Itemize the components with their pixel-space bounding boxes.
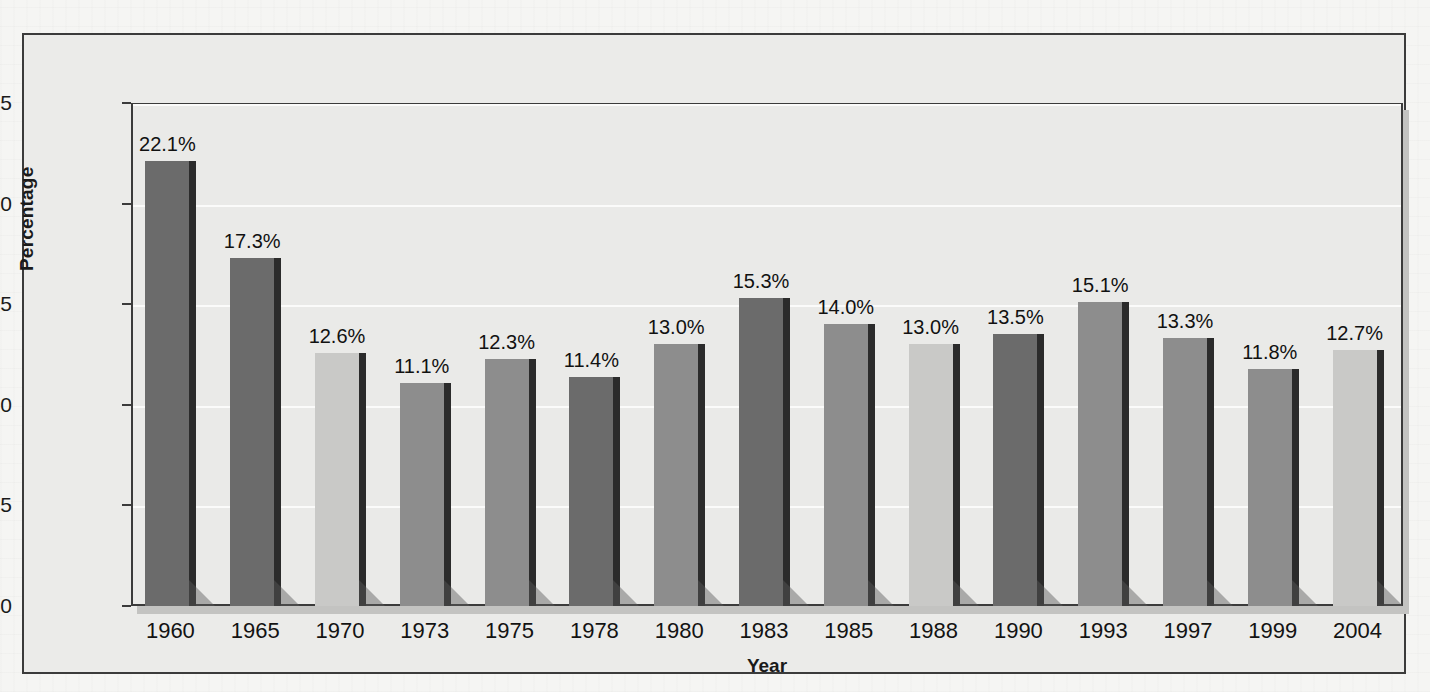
bar-drop-shadow — [1122, 580, 1148, 606]
bar-drop-shadow — [529, 580, 555, 606]
y-tick-label: 20 — [0, 192, 12, 216]
bar-value-label: 12.3% — [478, 331, 535, 354]
bar-drop-shadow — [698, 580, 724, 606]
bar[interactable] — [1078, 302, 1122, 606]
bar[interactable] — [485, 359, 529, 606]
bar[interactable] — [230, 258, 274, 606]
bar-slot: 13.0% — [640, 103, 725, 606]
bar-value-label: 13.0% — [902, 316, 959, 339]
bar-edge — [1207, 338, 1214, 606]
x-tick-label: 1965 — [231, 618, 280, 644]
bar-drop-shadow — [359, 580, 385, 606]
x-axis-tick-labels: 1960196519701973197519781980198319851988… — [131, 618, 1403, 652]
bar-drop-shadow — [783, 580, 809, 606]
bar[interactable] — [739, 298, 783, 606]
figure-frame: Percentage 0510152025 22.1%17.3%12.6%11.… — [22, 33, 1406, 674]
bar-slot: 15.3% — [725, 103, 810, 606]
bar-slot: 22.1% — [131, 103, 216, 606]
bar-body — [1163, 338, 1207, 606]
y-tick-label: 25 — [0, 91, 12, 115]
bar-drop-shadow — [444, 580, 470, 606]
bar-value-label: 14.0% — [817, 296, 874, 319]
bar[interactable] — [400, 383, 444, 606]
bar-edge — [868, 324, 875, 606]
bar-value-label: 15.1% — [1072, 274, 1129, 297]
y-tick-mark — [122, 605, 131, 607]
bar-body — [739, 298, 783, 606]
bar-body — [654, 344, 698, 606]
y-tick-label: 5 — [0, 493, 12, 517]
bar-body — [400, 383, 444, 606]
bar-drop-shadow — [1292, 580, 1318, 606]
x-tick-label: 1970 — [316, 618, 365, 644]
bar-value-label: 13.3% — [1157, 310, 1214, 333]
bar[interactable] — [145, 161, 189, 606]
bar-body — [569, 377, 613, 606]
bar-body — [993, 334, 1037, 606]
y-tick-mark — [122, 404, 131, 406]
bar-drop-shadow — [274, 580, 300, 606]
bar[interactable] — [1248, 369, 1292, 606]
x-tick-label: 1999 — [1248, 618, 1297, 644]
y-tick-label: 15 — [0, 292, 12, 316]
bar[interactable] — [1163, 338, 1207, 606]
bar-value-label: 12.7% — [1326, 322, 1383, 345]
bar-edge — [783, 298, 790, 606]
bar-body — [1248, 369, 1292, 606]
bar-slot: 12.3% — [470, 103, 555, 606]
bar-value-label: 11.8% — [1242, 341, 1297, 364]
bar[interactable] — [315, 353, 359, 607]
x-tick-label: 1983 — [740, 618, 789, 644]
bar[interactable] — [1333, 350, 1377, 606]
bar-edge — [1292, 369, 1299, 606]
bar-edge — [189, 161, 196, 606]
baseline-shelf — [137, 608, 1409, 614]
bar[interactable] — [909, 344, 953, 606]
y-tick-label: 10 — [0, 393, 12, 417]
bar-edge — [359, 353, 366, 607]
bar-edge — [274, 258, 281, 606]
x-tick-label: 1960 — [146, 618, 195, 644]
bar-slot: 11.8% — [1233, 103, 1318, 606]
bar-slot: 11.4% — [555, 103, 640, 606]
bar-body — [909, 344, 953, 606]
x-tick-label: 1990 — [994, 618, 1043, 644]
y-tick-mark — [122, 303, 131, 305]
bar-edge — [1377, 350, 1384, 606]
bar-drop-shadow — [1207, 580, 1233, 606]
bar-slot: 17.3% — [216, 103, 301, 606]
bar-slot: 13.3% — [1149, 103, 1234, 606]
bar-body — [824, 324, 868, 606]
bar-slot: 15.1% — [1064, 103, 1149, 606]
bar-body — [230, 258, 274, 606]
bar-body — [1333, 350, 1377, 606]
x-tick-label: 1985 — [824, 618, 873, 644]
scanned-page-background: Percentage 0510152025 22.1%17.3%12.6%11.… — [0, 0, 1430, 692]
bar[interactable] — [824, 324, 868, 606]
y-tick-mark — [122, 203, 131, 205]
bar-edge — [698, 344, 705, 606]
bar-slot: 13.0% — [894, 103, 979, 606]
bar-drop-shadow — [613, 580, 639, 606]
bar-body — [315, 353, 359, 607]
bar-edge — [444, 383, 451, 606]
x-axis-title: Year — [131, 655, 1403, 677]
y-tick-mark — [122, 504, 131, 506]
bar-slot: 13.5% — [979, 103, 1064, 606]
bar-drop-shadow — [868, 580, 894, 606]
bar-drop-shadow — [1377, 580, 1403, 606]
y-tick-label: 0 — [0, 594, 12, 618]
x-tick-label: 1988 — [909, 618, 958, 644]
bar-value-label: 13.0% — [648, 316, 705, 339]
x-tick-label: 1980 — [655, 618, 704, 644]
bar-edge — [1037, 334, 1044, 606]
bar-value-label: 11.1% — [394, 355, 449, 378]
bar[interactable] — [569, 377, 613, 606]
bar-drop-shadow — [953, 580, 979, 606]
bar[interactable] — [993, 334, 1037, 606]
x-tick-label: 1973 — [400, 618, 449, 644]
bar[interactable] — [654, 344, 698, 606]
bar-drop-shadow — [1037, 580, 1063, 606]
x-tick-label: 1997 — [1164, 618, 1213, 644]
y-axis-title: Percentage — [16, 167, 38, 271]
